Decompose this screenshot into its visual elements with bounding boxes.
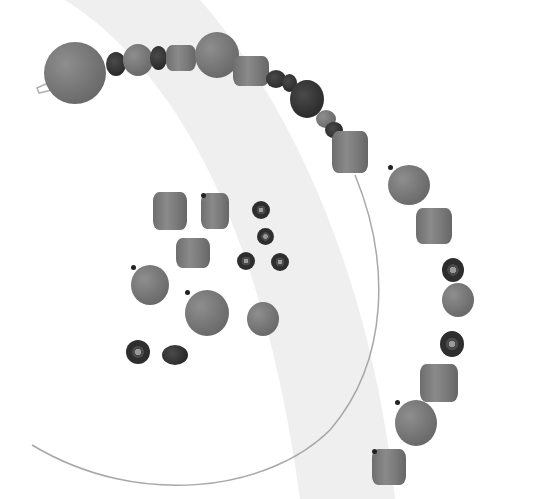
round-bead [44, 42, 106, 104]
barrel-bead [420, 364, 458, 402]
barrel-bead [332, 131, 368, 173]
ring-bead [442, 258, 464, 282]
ring-bead [252, 201, 270, 219]
dark-bead [162, 345, 188, 365]
ring-bead [126, 340, 150, 364]
round-bead [123, 44, 153, 76]
round-bead [442, 283, 474, 317]
ring-bead [237, 252, 255, 270]
bead-photo [0, 0, 542, 499]
round-bead [247, 302, 279, 336]
barrel-bead [176, 238, 210, 268]
dark-bead [150, 46, 167, 70]
round-bead [185, 290, 229, 336]
barrel-bead [233, 56, 269, 86]
barrel-bead [166, 45, 196, 71]
round-bead [388, 165, 430, 205]
barrel-bead [416, 208, 452, 244]
ring-bead [440, 331, 464, 357]
ring-bead [257, 228, 274, 245]
barrel-bead [153, 192, 187, 230]
round-bead [131, 265, 169, 305]
ring-bead [271, 253, 289, 271]
barrel-bead [201, 193, 229, 229]
barrel-bead [372, 449, 406, 485]
round-bead [395, 400, 437, 446]
